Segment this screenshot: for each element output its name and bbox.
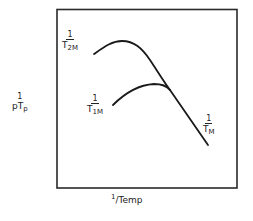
y-axis-label-denominator: pTp <box>12 101 28 114</box>
label-t1m: 1 T1M <box>87 94 103 117</box>
plot-frame <box>57 10 237 189</box>
plot-area <box>0 0 253 221</box>
label-tm: 1 TM <box>203 114 215 137</box>
label-t2m-denominator: T2M <box>62 40 78 53</box>
curve-t1m <box>113 84 170 105</box>
label-t1m-denominator: T1M <box>87 104 103 117</box>
curve-t2m <box>94 41 170 90</box>
y-axis-label-subscript: p <box>23 105 27 113</box>
label-tm-subscript: M <box>209 128 215 136</box>
y-axis-label: 1 pTp <box>12 92 28 114</box>
x-axis-label: 1/Temp <box>111 193 143 205</box>
label-t2m-subscript: 2M <box>68 44 79 52</box>
y-axis-label-den-text: pT <box>12 101 23 111</box>
y-axis-label-numerator: 1 <box>16 92 23 101</box>
label-tm-denominator: TM <box>203 124 215 137</box>
x-axis-label-text: /Temp <box>115 195 142 205</box>
label-tm-numerator: 1 <box>205 114 212 124</box>
label-t1m-numerator: 1 <box>91 94 98 104</box>
label-t2m-numerator: 1 <box>66 30 73 40</box>
label-t2m: 1 T2M <box>62 30 78 53</box>
label-t1m-subscript: 1M <box>93 108 104 116</box>
